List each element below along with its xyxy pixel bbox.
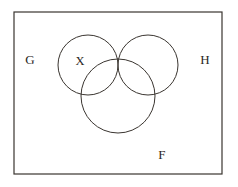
venn-diagram-canvas: G H F X <box>0 0 238 187</box>
circle-set-h <box>118 35 178 95</box>
circle-set-g <box>58 35 118 95</box>
universal-set-rectangle <box>14 12 222 174</box>
venn-diagram-figure: G H F X <box>0 0 238 187</box>
region-label-x: X <box>75 54 84 68</box>
set-label-f: F <box>158 147 165 162</box>
set-label-h: H <box>200 52 210 67</box>
set-label-g: G <box>25 52 35 67</box>
